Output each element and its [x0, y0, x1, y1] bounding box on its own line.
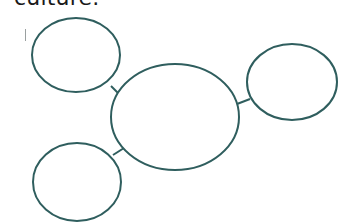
- bubble-top-left[interactable]: [32, 18, 120, 92]
- connector-center-bottom-left: [113, 148, 124, 155]
- bubble-right[interactable]: [247, 44, 337, 120]
- bubble-map-diagram: [0, 0, 349, 224]
- bubble-bottom-left[interactable]: [33, 143, 121, 221]
- bubble-center[interactable]: [111, 64, 239, 170]
- connector-center-right: [237, 99, 250, 104]
